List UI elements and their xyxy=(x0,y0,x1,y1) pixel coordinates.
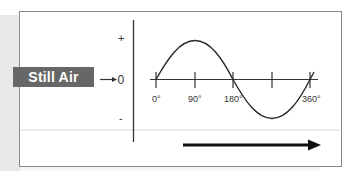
sine-wave-diagram: + 0 - 0° 90° 180° 360° xyxy=(0,0,350,177)
tick-label-360: 360° xyxy=(302,94,321,104)
tick-label-0: 0° xyxy=(152,94,161,104)
y-label-minus: - xyxy=(119,112,123,124)
still-air-label: Still Air xyxy=(13,67,94,87)
y-label-zero: 0 xyxy=(118,73,125,87)
tick-label-180: 180° xyxy=(224,94,243,104)
y-label-plus: + xyxy=(118,32,124,44)
still-air-arrow-head xyxy=(112,77,117,82)
direction-arrow-head xyxy=(308,140,321,151)
tick-label-90: 90° xyxy=(188,94,202,104)
